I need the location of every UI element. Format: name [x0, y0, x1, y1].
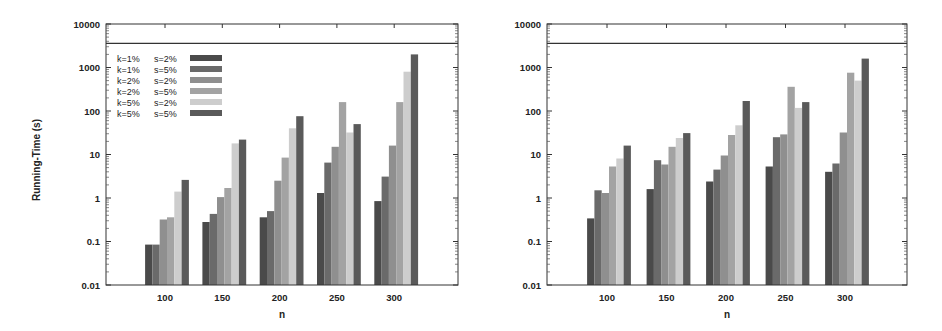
legend-label-k: k=1% — [117, 65, 140, 75]
bar — [202, 222, 209, 285]
y-tick-label: 100 — [525, 106, 541, 117]
bar — [182, 180, 189, 285]
x-axis-label: n — [724, 309, 730, 320]
x-tick-label: 100 — [157, 292, 173, 303]
legend-label-s: s=2% — [154, 54, 177, 64]
chart-canvas: Running-Time (s) n 1001502002503000.010.… — [0, 0, 942, 331]
bar — [661, 165, 668, 286]
bar — [374, 201, 381, 285]
bar — [382, 177, 389, 285]
bar — [267, 211, 274, 285]
bar — [152, 245, 159, 285]
x-tick-label: 100 — [599, 292, 615, 303]
bar — [676, 138, 683, 285]
bar — [862, 59, 869, 285]
x-axis-label: n — [279, 309, 285, 320]
bar — [602, 193, 609, 285]
bar — [324, 163, 331, 285]
y-tick-label: 1 — [536, 193, 542, 204]
y-tick-label: 10000 — [515, 19, 541, 30]
x-tick-label: 200 — [272, 292, 288, 303]
legend-label-k: k=1% — [117, 54, 140, 64]
bar — [210, 214, 217, 285]
legend-swatch — [190, 77, 222, 83]
figure: Running-Time (s) n 1001502002503000.010.… — [0, 0, 942, 331]
bar — [160, 220, 167, 286]
bar — [594, 190, 601, 285]
bar — [411, 54, 418, 285]
bar — [317, 193, 324, 285]
bar — [728, 135, 735, 285]
y-tick-label: 1000 — [79, 62, 100, 73]
bar — [669, 147, 676, 285]
bar — [743, 101, 750, 285]
bar — [773, 137, 780, 285]
legend-swatch — [190, 88, 222, 94]
bar — [217, 197, 224, 285]
y-axis-label: Running-Time (s) — [31, 119, 42, 201]
legend-label-k: k=2% — [117, 76, 140, 86]
x-tick-label: 200 — [718, 292, 734, 303]
legend-swatch — [190, 110, 222, 116]
bar — [795, 108, 802, 285]
legend-label-k: k=5% — [117, 109, 140, 119]
y-tick-label: 1 — [95, 193, 101, 204]
legend-label-k: k=2% — [117, 87, 140, 97]
chart-right: n 1001502002503000.010.1110100100010000 — [515, 19, 907, 321]
bar — [145, 245, 152, 285]
x-tick-label: 300 — [386, 292, 402, 303]
y-tick-label: 0.1 — [87, 236, 101, 247]
y-tick-label: 10000 — [74, 19, 100, 30]
bar — [404, 72, 411, 285]
bar — [788, 87, 795, 285]
legend-label-s: s=5% — [154, 109, 177, 119]
bar — [174, 192, 181, 285]
legend-label-s: s=2% — [154, 98, 177, 108]
bar — [274, 181, 281, 285]
bar — [832, 164, 839, 286]
bar — [721, 156, 728, 286]
bar — [296, 116, 303, 285]
bar — [683, 133, 690, 285]
x-tick-label: 300 — [837, 292, 853, 303]
y-tick-label: 10 — [530, 149, 541, 160]
bar — [735, 125, 742, 285]
bar — [616, 159, 623, 286]
y-tick-label: 0.01 — [82, 280, 101, 291]
bar — [780, 134, 787, 285]
bar — [713, 170, 720, 285]
bar — [167, 217, 174, 285]
x-tick-label: 150 — [659, 292, 675, 303]
bar — [624, 146, 631, 285]
legend-label-s: s=2% — [154, 76, 177, 86]
y-tick-label: 10 — [89, 149, 100, 160]
bar — [825, 172, 832, 285]
bar — [802, 102, 809, 285]
bar — [854, 81, 861, 285]
bar — [587, 218, 594, 285]
legend-swatch — [190, 99, 222, 105]
bar — [847, 73, 854, 285]
legend-label-k: k=5% — [117, 98, 140, 108]
bar — [396, 102, 403, 285]
legend-swatch — [190, 55, 222, 61]
y-tick-label: 0.01 — [523, 280, 542, 291]
bar — [289, 128, 296, 285]
bar — [339, 102, 346, 285]
bar — [609, 167, 616, 286]
legend-label-s: s=5% — [154, 87, 177, 97]
bar — [239, 140, 246, 285]
x-tick-label: 250 — [778, 292, 794, 303]
y-tick-label: 1000 — [520, 62, 541, 73]
x-tick-label: 150 — [214, 292, 230, 303]
bar — [354, 124, 361, 285]
bar — [346, 133, 353, 286]
chart-left: Running-Time (s) n 1001502002503000.010.… — [31, 19, 458, 321]
bar — [766, 167, 773, 286]
bar — [282, 158, 289, 285]
legend-swatch — [190, 66, 222, 72]
bar — [232, 143, 239, 285]
bar — [332, 147, 339, 285]
bar — [224, 188, 231, 285]
bar — [840, 133, 847, 286]
